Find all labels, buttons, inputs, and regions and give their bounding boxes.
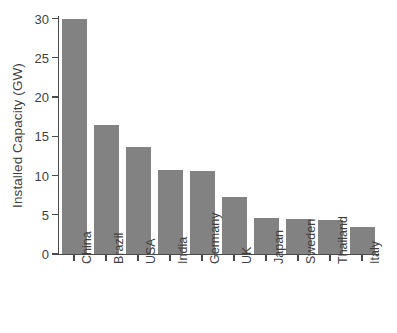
x-axis-category-label: Germany — [208, 213, 222, 264]
x-axis-tick — [329, 255, 330, 261]
x-axis-tick — [233, 255, 234, 261]
y-axis-tick — [52, 136, 58, 137]
y-axis-tick-label: 20 — [3, 90, 49, 105]
y-axis-tick — [52, 96, 58, 97]
y-axis-tick-label: 10 — [3, 168, 49, 183]
x-axis-category-label: Brazil — [112, 233, 126, 264]
x-axis-category-label: Thailand — [336, 216, 350, 264]
y-axis-tick — [52, 175, 58, 176]
y-axis-tick — [52, 18, 58, 19]
bar[interactable] — [62, 19, 87, 255]
y-axis-tick-label: 25 — [3, 50, 49, 65]
x-axis-tick — [361, 255, 362, 261]
bar[interactable] — [222, 197, 247, 254]
x-axis-category-label: Italy — [368, 241, 382, 264]
x-axis-category-label: UK — [240, 247, 254, 264]
x-axis-tick — [265, 255, 266, 261]
y-axis-tick-label: 30 — [3, 11, 49, 26]
y-axis-tick-label: 5 — [3, 207, 49, 222]
x-axis-category-label: Sweden — [304, 219, 318, 264]
x-axis-tick — [169, 255, 170, 261]
x-axis-category-label: Japan — [272, 230, 286, 264]
y-axis-tick — [52, 57, 58, 58]
y-axis-tick — [52, 253, 58, 254]
y-axis-tick-label: 0 — [3, 247, 49, 262]
x-axis-tick — [137, 255, 138, 261]
x-axis-tick — [105, 255, 106, 261]
x-axis-tick — [201, 255, 202, 261]
x-axis-category-label: China — [80, 231, 94, 264]
y-axis-tick-label: 15 — [3, 129, 49, 144]
bar-chart-figure: Installed Capacity (GW) 051015202530 Chi… — [0, 0, 397, 333]
x-axis-tick — [297, 255, 298, 261]
x-axis-category-label: India — [176, 237, 190, 264]
y-axis-tick-labels: 051015202530 — [0, 0, 49, 333]
x-axis-category-label: USA — [144, 238, 158, 264]
y-axis-tick — [52, 214, 58, 215]
x-axis-tick — [73, 255, 74, 261]
